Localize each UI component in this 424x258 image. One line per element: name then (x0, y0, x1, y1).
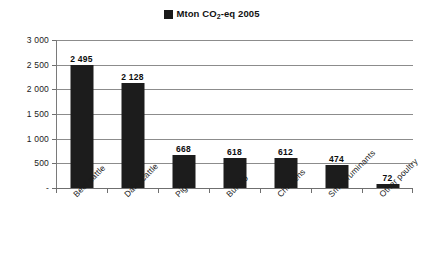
y-axis-tick-label: 500 (34, 158, 49, 168)
y-axis-tick (52, 139, 56, 140)
bar-value-label: 618 (227, 147, 242, 157)
y-axis-tick-label: 2 000 (27, 84, 49, 94)
legend-label: Mton CO2-eq 2005 (176, 9, 259, 19)
y-axis-tick-label: - (46, 183, 49, 193)
bar-value-label: 668 (176, 144, 191, 154)
y-axis-labels: -5001 0001 5002 0002 5003 000 (0, 0, 49, 258)
legend-label-prefix: Mton CO (176, 8, 216, 19)
bar-slot: 618 (209, 40, 260, 188)
y-axis-tick-label: 3 000 (27, 35, 49, 45)
bar-value-label: 474 (329, 154, 344, 164)
y-axis-tick (52, 188, 56, 189)
legend-swatch-icon (164, 10, 173, 19)
y-axis-tick (52, 65, 56, 66)
bar-slot: 612 (260, 40, 311, 188)
bar-value-label: 2 128 (121, 72, 143, 82)
y-axis-tick-label: 1 500 (27, 109, 49, 119)
chart-legend: Mton CO2-eq 2005 (0, 9, 424, 19)
y-axis-tick (52, 89, 56, 90)
bar-value-label: 612 (278, 147, 293, 157)
bar-chart: Mton CO2-eq 2005 -5001 0001 5002 0002 50… (0, 0, 424, 258)
bar-slot: 668 (158, 40, 209, 188)
y-axis-tick-label: 1 000 (27, 134, 49, 144)
legend-label-suffix: -eq 2005 (221, 8, 260, 19)
y-axis-tick (52, 163, 56, 164)
bar-value-label: 2 495 (70, 54, 92, 64)
y-axis-tick (52, 114, 56, 115)
legend-label-subscript: 2 (217, 13, 221, 20)
y-axis-tick-label: 2 500 (27, 60, 49, 70)
bar (70, 65, 93, 188)
x-axis-category-labels: Beef cattleDairy cattlePigsBuffaloChicke… (56, 192, 413, 258)
y-axis-tick (52, 40, 56, 41)
